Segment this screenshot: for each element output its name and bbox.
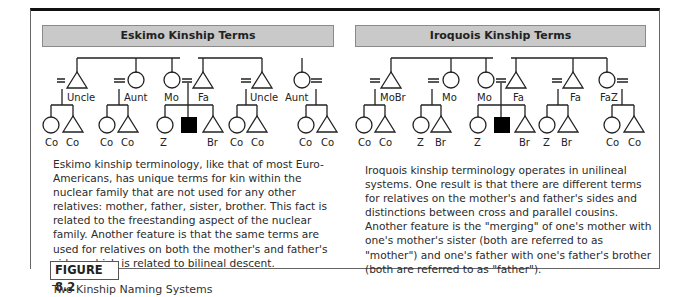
figure-label: FIGURE 8.2 <box>50 261 119 280</box>
eskimo-kinship-diagram: Uncle Aunt Mo Fa Uncle Aunt Co Co Co Co … <box>0 50 340 160</box>
svg-text:Co: Co <box>379 137 392 148</box>
svg-text:Mo: Mo <box>442 92 457 103</box>
svg-text:Z: Z <box>543 137 550 148</box>
svg-text:Co: Co <box>100 137 113 148</box>
svg-text:Co: Co <box>66 137 79 148</box>
svg-text:Fa: Fa <box>513 92 524 103</box>
svg-text:Mo: Mo <box>477 92 492 103</box>
svg-text:Co: Co <box>121 137 134 148</box>
svg-text:Co: Co <box>358 137 371 148</box>
iroquois-kinship-diagram: MoBr Mo Mo Fa Fa FaZ Co Co Z Br Z Br Z B… <box>340 50 684 160</box>
svg-text:Uncle: Uncle <box>67 92 95 103</box>
circle-icon <box>128 72 144 88</box>
svg-text:Co: Co <box>606 137 619 148</box>
svg-text:Uncle: Uncle <box>250 92 278 103</box>
svg-text:MoBr: MoBr <box>380 92 407 103</box>
triangle-icon <box>67 72 87 88</box>
circle-icon <box>294 72 310 88</box>
ego-square-icon <box>494 117 510 133</box>
svg-text:Co: Co <box>321 137 334 148</box>
svg-text:Co: Co <box>230 137 243 148</box>
triangle-icon <box>193 72 213 88</box>
svg-text:Z: Z <box>160 137 167 148</box>
svg-text:Aunt: Aunt <box>124 92 148 103</box>
svg-text:Br: Br <box>207 137 219 148</box>
svg-text:Fa: Fa <box>198 92 209 103</box>
iroquois-description: Iroquois kinship terminology operates in… <box>365 163 655 276</box>
svg-text:Co: Co <box>45 137 58 148</box>
svg-text:Br: Br <box>519 137 531 148</box>
eskimo-description: Eskimo kinship terminology, like that of… <box>53 157 333 270</box>
svg-text:Co: Co <box>299 137 312 148</box>
svg-text:Aunt: Aunt <box>285 92 309 103</box>
svg-text:Mo: Mo <box>164 92 179 103</box>
frame-gap <box>31 266 50 270</box>
ego-square-icon <box>181 117 197 133</box>
circle-icon <box>164 72 180 88</box>
svg-text:FaZ: FaZ <box>600 92 618 103</box>
svg-text:Z: Z <box>474 137 481 148</box>
svg-text:Br: Br <box>561 137 573 148</box>
figure-caption: Two Kinship Naming Systems <box>52 283 213 296</box>
eskimo-title: Eskimo Kinship Terms <box>42 25 334 47</box>
svg-text:Co: Co <box>251 137 264 148</box>
svg-text:Br: Br <box>435 137 447 148</box>
svg-text:Co: Co <box>628 137 641 148</box>
svg-text:Z: Z <box>417 137 424 148</box>
iroquois-title: Iroquois Kinship Terms <box>355 25 646 47</box>
svg-text:Fa: Fa <box>570 92 581 103</box>
triangle-icon <box>252 72 272 88</box>
